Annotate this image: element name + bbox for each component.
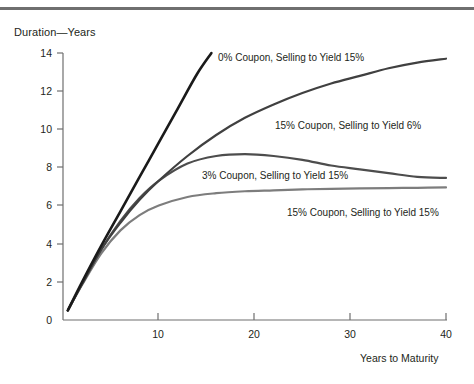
- y-tick-label-6: 6: [30, 199, 52, 211]
- series-line-1: [68, 59, 446, 311]
- y-tick-label-0: 0: [30, 314, 52, 326]
- y-tick-label-4: 4: [30, 238, 52, 250]
- x-axis-title: Years to Maturity: [360, 352, 438, 364]
- duration-chart-figure: Duration—Years 14 12 10 8 6 4 2 0: [0, 0, 474, 384]
- series-annotation-15pct-yield-6: 15% Coupon, Selling to Yield 6%: [275, 120, 421, 131]
- y-tick-label-10: 10: [30, 123, 52, 135]
- y-axis-ticks: [57, 53, 63, 282]
- series-annotation-3pct-yield-15: 3% Coupon, Selling to Yield 15%: [202, 170, 348, 181]
- x-tick-label-10: 10: [143, 328, 173, 340]
- x-tick-label-40: 40: [431, 328, 461, 340]
- y-tick-label-8: 8: [30, 161, 52, 173]
- y-tick-label-14: 14: [30, 47, 52, 59]
- series-annotation-zero-coupon: 0% Coupon, Selling to Yield 15%: [218, 52, 364, 63]
- x-axis-ticks: [158, 313, 446, 320]
- series-annotation-15pct-yield-15: 15% Coupon, Selling to Yield 15%: [287, 207, 439, 218]
- y-tick-label-2: 2: [30, 276, 52, 288]
- series-paths: [68, 53, 446, 310]
- x-tick-label-30: 30: [335, 328, 365, 340]
- x-tick-label-20: 20: [239, 328, 269, 340]
- y-tick-label-12: 12: [30, 85, 52, 97]
